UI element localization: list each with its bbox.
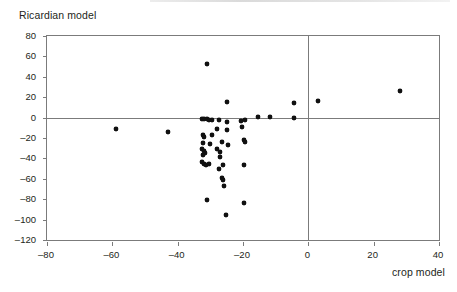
- y-tick-label: 60: [0, 50, 36, 61]
- x-tick-label: 40: [433, 249, 444, 260]
- data-point: [208, 142, 212, 146]
- y-tick-mark: [43, 138, 47, 139]
- x-tick-mark: [47, 242, 48, 246]
- x-tick-mark: [178, 242, 179, 246]
- data-point: [240, 125, 244, 129]
- data-point: [225, 128, 229, 132]
- data-point: [166, 130, 170, 134]
- data-point: [202, 135, 206, 139]
- y-tick-label: –100: [0, 213, 36, 224]
- data-point: [398, 89, 402, 93]
- data-point: [268, 115, 272, 119]
- data-point: [218, 155, 222, 159]
- data-point: [243, 140, 247, 144]
- plot-frame: [46, 35, 440, 241]
- data-point: [256, 115, 260, 119]
- x-tick-mark: [374, 242, 375, 246]
- data-point: [292, 116, 296, 120]
- x-tick-mark: [243, 242, 244, 246]
- data-point: [217, 118, 221, 122]
- x-tick-label: 0: [305, 249, 310, 260]
- page-crop-artifact: [150, 0, 450, 2]
- data-point: [222, 184, 226, 188]
- y-tick-mark: [43, 240, 47, 241]
- data-point: [243, 118, 247, 122]
- data-point: [205, 198, 209, 202]
- data-point: [114, 127, 118, 131]
- y-axis-title: Ricardian model: [19, 9, 96, 21]
- y-tick-mark: [43, 158, 47, 159]
- y-tick-mark: [43, 179, 47, 180]
- y-tick-label: –80: [0, 193, 36, 204]
- data-point: [221, 178, 225, 182]
- y-tick-mark: [43, 56, 47, 57]
- data-point: [215, 127, 219, 131]
- x-tick-mark: [112, 242, 113, 246]
- data-point: [201, 141, 205, 145]
- data-point: [207, 162, 211, 166]
- data-point: [225, 100, 229, 104]
- data-point: [242, 163, 246, 167]
- y-tick-mark: [43, 199, 47, 200]
- x-tick-mark: [308, 242, 309, 246]
- data-point: [242, 201, 246, 205]
- data-point: [201, 153, 205, 157]
- data-point: [292, 101, 296, 105]
- y-tick-mark: [43, 36, 47, 37]
- y-tick-label: –40: [0, 152, 36, 163]
- y-tick-label: –120: [0, 234, 36, 245]
- y-tick-mark: [43, 77, 47, 78]
- data-point: [205, 62, 209, 66]
- x-tick-label: –60: [103, 249, 119, 260]
- y-tick-label: –20: [0, 132, 36, 143]
- data-point: [210, 133, 214, 137]
- y-tick-mark: [43, 220, 47, 221]
- x-tick-label: –40: [169, 249, 185, 260]
- y-tick-label: 20: [0, 91, 36, 102]
- y-tick-mark: [43, 97, 47, 98]
- x-tick-label: –80: [38, 249, 54, 260]
- y-tick-label: 80: [0, 30, 36, 41]
- zero-line-vertical: [308, 36, 309, 240]
- x-tick-label: –20: [234, 249, 250, 260]
- y-tick-mark: [43, 118, 47, 119]
- plot-area: [47, 36, 439, 240]
- chart-figure: Ricardian model crop model –120–100–80–6…: [0, 0, 457, 292]
- data-point: [217, 167, 221, 171]
- data-point: [224, 213, 228, 217]
- x-tick-label: 20: [367, 249, 378, 260]
- data-point: [221, 163, 225, 167]
- data-point: [316, 99, 320, 103]
- data-point: [210, 118, 214, 122]
- x-axis-title: crop model: [392, 266, 445, 278]
- x-tick-mark: [439, 242, 440, 246]
- y-tick-label: 40: [0, 70, 36, 81]
- data-point: [225, 120, 229, 124]
- data-point: [220, 140, 224, 144]
- data-point: [218, 150, 222, 154]
- data-point: [226, 143, 230, 147]
- y-tick-label: 0: [0, 111, 36, 122]
- y-tick-label: –60: [0, 172, 36, 183]
